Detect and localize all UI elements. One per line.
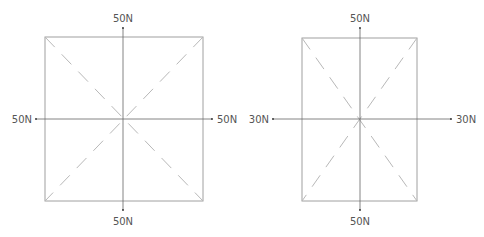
force-label-right: 50N [217, 114, 237, 125]
rectangular-plate-diagram: 50N 50N 30N 30N [249, 13, 476, 227]
force-label-bottom: 50N [113, 216, 133, 227]
force-label-bottom: 50N [350, 216, 370, 227]
force-label-left: 30N [249, 114, 269, 125]
force-label-top: 50N [350, 13, 370, 24]
force-diagrams: 50N 50N 50N 50N 50N 50N 30N 30N [0, 0, 484, 237]
force-label-top: 50N [113, 13, 133, 24]
square-plate-diagram: 50N 50N 50N 50N [12, 13, 237, 227]
force-label-left: 50N [12, 114, 32, 125]
force-label-right: 30N [456, 114, 476, 125]
